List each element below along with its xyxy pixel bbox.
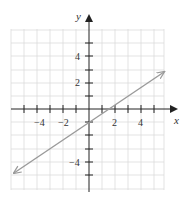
y-axis-label: y <box>75 10 81 22</box>
x-tick-label: −2 <box>58 117 69 128</box>
y-tick-label: 2 <box>75 77 80 88</box>
x-tick-label: 2 <box>112 117 117 128</box>
x-tick-label: −4 <box>34 117 45 128</box>
x-axis-label: x <box>173 114 179 126</box>
y-tick-label: 4 <box>75 51 80 62</box>
y-tick-label: −4 <box>69 157 80 168</box>
x-tick-label: 4 <box>138 117 143 128</box>
coordinate-plane: −4 −2 2 4 4 2 −4 x y <box>0 0 186 200</box>
